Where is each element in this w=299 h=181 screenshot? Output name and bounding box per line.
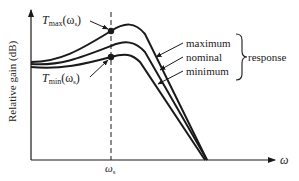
maximum-label: maximum	[186, 37, 231, 49]
tmax-label: Tmax(ωs)	[42, 13, 81, 28]
tmax-point	[108, 28, 114, 34]
tmin-label: Tmin(ωs)	[42, 71, 80, 86]
tmin-point	[108, 54, 114, 60]
response-diagram: Tmax(ωs) Tmin(ωs) maximum nominal minimu…	[0, 0, 299, 181]
curve-nominal	[31, 42, 207, 160]
response-brace	[236, 34, 247, 80]
minimum-leader	[158, 71, 183, 84]
response-label: response	[248, 51, 287, 63]
curve-maximum	[31, 25, 207, 160]
nominal-label: nominal	[186, 51, 222, 63]
omega-s-tick-label: ωs	[105, 162, 116, 176]
minimum-label: minimum	[186, 65, 229, 77]
nominal-leader	[160, 57, 183, 70]
x-axis-label: ω	[280, 153, 288, 167]
maximum-leader	[156, 43, 183, 57]
tmax-leader	[90, 21, 108, 29]
curve-minimum	[31, 55, 205, 160]
y-axis-label: Relative gain (dB)	[6, 40, 19, 122]
